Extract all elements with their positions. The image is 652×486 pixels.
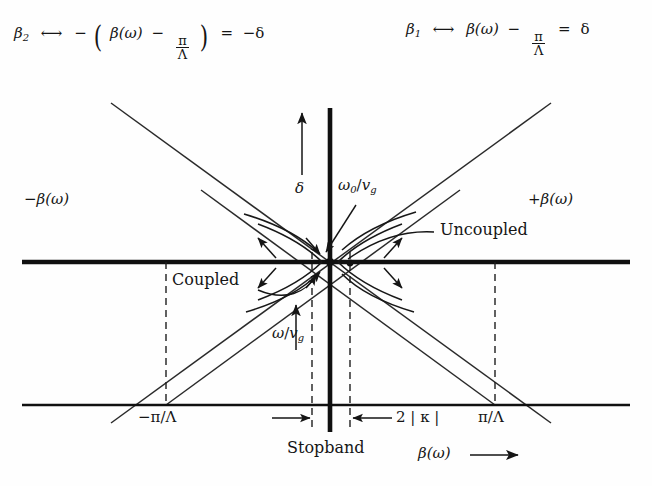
beta1-result: δ (580, 20, 589, 38)
label-positive-beta: +β(ω) (528, 192, 573, 207)
beta1-equals: = (558, 20, 571, 38)
arrow-branch-lower-left (258, 268, 276, 288)
line-negative-beta (111, 103, 551, 423)
label-tick-plus-pi-lambda: π/Λ (478, 410, 504, 425)
hyperbola-inner-lower-left (258, 262, 322, 300)
arrow-branch-upper-left (258, 238, 276, 258)
beta1-subscript: 1 (415, 28, 421, 39)
arrow-center-upper (306, 238, 320, 254)
beta2-minus: − (74, 24, 87, 42)
label-omega-over-vg: ω/vg (272, 326, 304, 343)
beta1-fraction: π Λ (532, 30, 545, 58)
label-omega0-over-vg: ω0/vg (338, 178, 377, 195)
beta1-frac-numerator: π (532, 30, 545, 43)
hyperbola-inner-upper-right (338, 224, 402, 262)
omega0-vg-leader (326, 205, 356, 252)
beta2-frac-numerator: π (176, 34, 189, 47)
beta2-open-paren: ( (94, 22, 102, 52)
label-coupled: Coupled (172, 272, 239, 288)
beta2-minus-inner: − (151, 24, 164, 42)
hyperbola-upper-right (342, 212, 416, 250)
beta1-minus: − (508, 20, 521, 38)
beta2-close-paren: ) (200, 22, 208, 52)
beta1-symbol: β (406, 20, 415, 38)
uncoupled-straight-lines (111, 103, 551, 423)
hyperbola-upper-left (244, 214, 318, 252)
arrow-branch-lower-right (384, 268, 402, 288)
beta2-beta-omega: β(ω) (110, 24, 143, 42)
beta1-arrow: ⟷ (433, 20, 455, 38)
beta2-equals: = (220, 24, 233, 42)
folded-branch-left (166, 190, 460, 405)
diagram-drawing-layer (0, 0, 652, 486)
uncoupled-leader-curve (348, 232, 434, 259)
hyperbola-lower-right (342, 274, 414, 312)
label-delta-axis: δ (295, 181, 304, 196)
label-stopband: Stopband (287, 440, 365, 456)
coupled-leader-curve (258, 276, 316, 295)
beta2-result: −δ (243, 24, 265, 42)
beta2-fraction: π Λ (176, 34, 189, 62)
hyperbola-inner-lower-right (338, 262, 402, 300)
beta2-frac-denominator: Λ (176, 47, 189, 61)
stopband-boundary-lines (312, 252, 350, 432)
arrow-center-lower (306, 272, 320, 288)
equation-beta2: β2 ⟷ − ( β(ω) − π Λ ) = −δ (14, 22, 264, 62)
equation-beta1: β1 ⟷ β(ω) − π Λ = δ (406, 22, 589, 58)
beta2-arrow: ⟷ (41, 24, 63, 42)
dispersion-diagram-figure: β2 ⟷ − ( β(ω) − π Λ ) = −δ β1 ⟷ β(ω) − π… (0, 0, 652, 486)
hyperbola-inner-upper-left (258, 224, 322, 262)
line-positive-beta (111, 103, 551, 423)
label-bandwidth-2kappa: 2 | κ | (396, 410, 439, 425)
label-negative-beta: −β(ω) (24, 192, 69, 207)
label-tick-minus-pi-lambda: −π/Λ (138, 410, 176, 425)
label-beta-omega-axis: β(ω) (418, 446, 451, 461)
uncoupled-node-marker (347, 260, 354, 267)
branch-direction-arrows (258, 238, 402, 288)
beta1-frac-denominator: Λ (532, 43, 545, 57)
beta2-symbol: β (14, 24, 23, 42)
label-uncoupled: Uncoupled (440, 222, 528, 238)
coupled-hyperbola-branches (244, 212, 416, 312)
hyperbola-lower-left (246, 274, 318, 312)
beta1-beta-omega: β(ω) (466, 20, 499, 38)
arrow-branch-upper-right (384, 238, 402, 258)
crossing-node-marker (326, 258, 334, 266)
beta2-subscript: 2 (23, 32, 29, 43)
